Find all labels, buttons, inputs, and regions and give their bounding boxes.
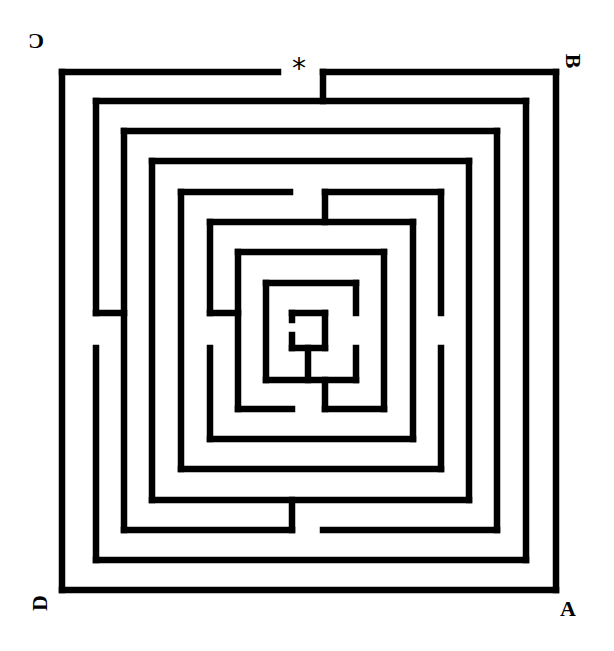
corner-label-a: A xyxy=(560,598,576,620)
corner-label-c: C xyxy=(28,30,44,52)
corner-label-b: B xyxy=(562,54,584,69)
start-marker-asterisk: * xyxy=(292,55,306,83)
maze-walls xyxy=(62,72,556,590)
maze-diagram xyxy=(0,0,614,651)
corner-label-d: D xyxy=(29,595,51,611)
